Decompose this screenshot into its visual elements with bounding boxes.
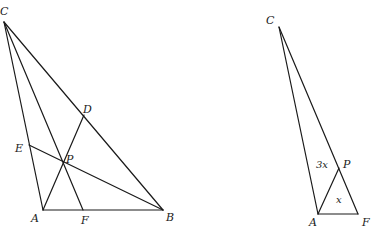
vertex-label-A: A xyxy=(30,212,39,225)
segment-BE xyxy=(29,145,163,210)
segment-CA xyxy=(279,27,318,214)
segment-CF xyxy=(4,22,83,210)
area-label-3x: 3x xyxy=(316,159,328,170)
vertex-label-B: B xyxy=(165,211,174,224)
vertex-label-P: P xyxy=(342,158,351,171)
segment-AP xyxy=(318,168,339,214)
vertex-label-F: F xyxy=(80,214,89,227)
left-triangle-figure: C D E P A F B xyxy=(0,0,190,238)
vertex-label-A: A xyxy=(308,216,317,229)
segment-CF xyxy=(279,27,358,214)
segment-CA xyxy=(4,22,43,210)
left-triangle-diagram: C D E P A F B xyxy=(0,0,190,238)
right-triangle-figure: C P A F 3x x xyxy=(250,0,375,238)
vertex-label-D: D xyxy=(82,103,92,116)
right-triangle-diagram: C P A F 3x x xyxy=(250,0,375,238)
vertex-label-F: F xyxy=(361,216,370,229)
area-label-x: x xyxy=(336,194,342,205)
vertex-label-C: C xyxy=(266,14,275,27)
vertex-label-P: P xyxy=(65,153,74,166)
vertex-label-C: C xyxy=(0,5,9,18)
vertex-label-E: E xyxy=(14,142,23,155)
